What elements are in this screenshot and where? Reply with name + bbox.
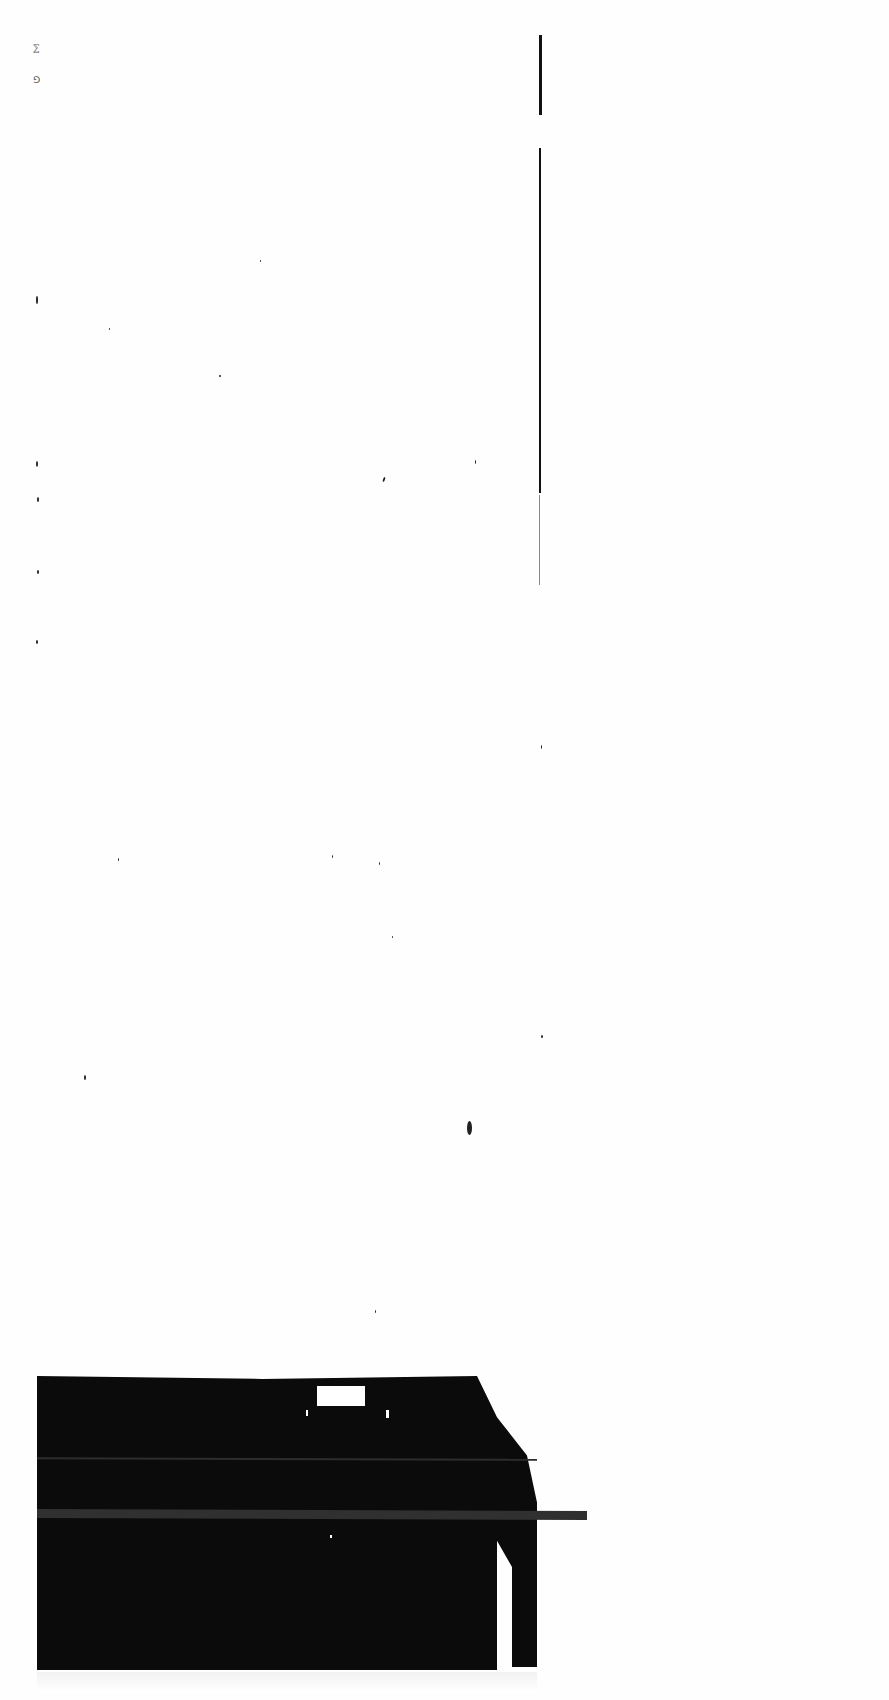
scanned-page: ⅀ ⅁ [0,0,889,1700]
speck [37,497,39,502]
speck [84,1075,86,1080]
corner-mark-1: ⅀ [33,44,39,53]
ink-blot [467,1121,472,1135]
speck [36,640,38,644]
speck [541,745,542,749]
speck [37,570,39,574]
speck [475,460,476,464]
artifact-gap [386,1410,389,1418]
photocopy-artifact [37,1376,537,1670]
speck [260,260,261,262]
binding-edge-line [539,148,541,493]
speck [379,862,380,865]
artifact-band [37,1509,587,1520]
speck [118,858,119,861]
binding-edge-line-faint [539,495,540,585]
speck [375,1310,376,1313]
artifact-shadow [37,1672,537,1692]
artifact-gap [330,1535,332,1538]
corner-mark-2: ⅁ [33,76,40,85]
speck [392,936,393,938]
speck [109,328,110,330]
speck [541,1035,543,1038]
speck [219,375,221,377]
speck [382,477,386,482]
speck [36,296,38,304]
speck [36,461,38,467]
binding-edge-line-top [539,35,542,115]
artifact-gap [306,1410,308,1416]
speck [332,855,333,858]
artifact-gap [317,1386,365,1406]
